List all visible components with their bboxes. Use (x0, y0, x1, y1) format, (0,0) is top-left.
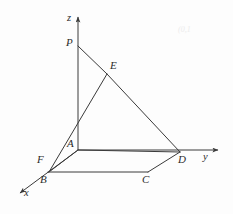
geometry-figure: z y x P E A D F B C (0,1 (0, 0, 233, 214)
axis-label-y: y (203, 152, 208, 163)
edge-E-D (107, 74, 180, 152)
vertex-label-D: D (178, 154, 186, 165)
vertex-label-P: P (66, 37, 73, 48)
axis-label-x: x (24, 188, 29, 199)
axes-group (20, 17, 218, 193)
vertex-label-C: C (142, 174, 149, 185)
faint-scan-mark: (0,1 (178, 26, 191, 34)
edge-D-C (148, 152, 180, 172)
vertex-label-E: E (110, 60, 117, 71)
vertex-label-B: B (40, 174, 47, 185)
vertex-label-A: A (67, 138, 74, 149)
axis-label-z: z (67, 13, 71, 24)
edge-P-E (78, 46, 107, 74)
vertex-label-F: F (37, 154, 44, 165)
edge-F-A (49, 150, 78, 172)
figure-canvas (0, 0, 233, 214)
